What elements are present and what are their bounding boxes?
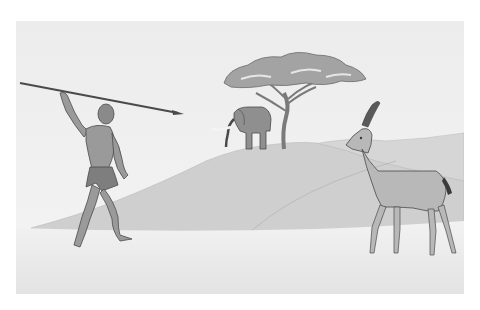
illustration-frame bbox=[16, 21, 464, 294]
antelope-eye bbox=[360, 137, 362, 139]
savanna-scene bbox=[16, 21, 464, 294]
hunter-head bbox=[98, 104, 114, 124]
